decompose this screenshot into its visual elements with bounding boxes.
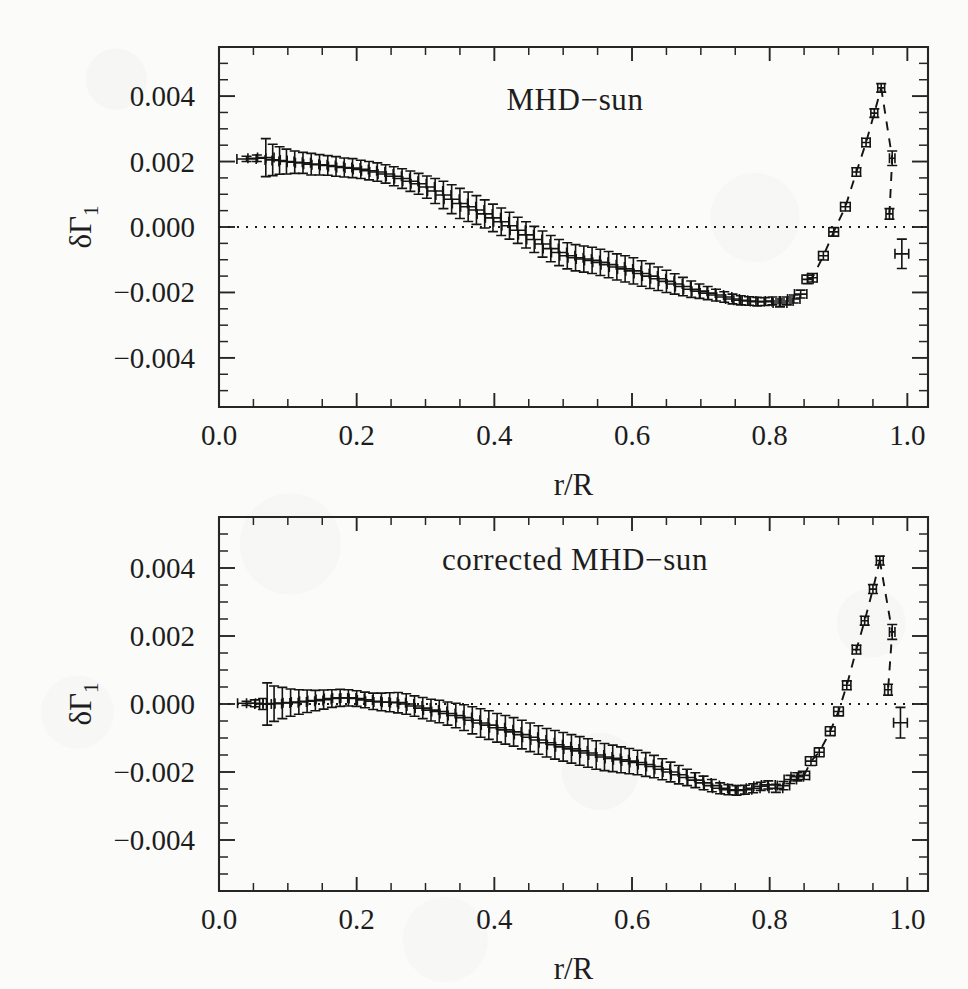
- y-tick-label: −0.004: [113, 824, 195, 856]
- y-tick-label: 0.000: [130, 211, 195, 243]
- x-tick-label: 0.2: [339, 903, 375, 935]
- error-bar-point: [794, 289, 806, 299]
- x-tick-label: 1.0: [889, 903, 925, 935]
- y-axis-title: δΓ1: [63, 205, 103, 248]
- x-tick-label: 0.4: [476, 419, 513, 451]
- error-bar-point: [807, 273, 817, 283]
- panel-annotation-title: corrected MHD−sun: [442, 542, 708, 577]
- figure-root: 0.00.20.40.60.81.00.0040.0020.000−0.002−…: [0, 0, 968, 989]
- panel-annotation-title: MHD−sun: [506, 82, 643, 117]
- y-tick-label: −0.002: [113, 276, 195, 308]
- error-bar-point: [887, 151, 897, 165]
- data-points-group: [238, 556, 908, 796]
- x-tick-label: 0.8: [752, 903, 788, 935]
- x-tick-label: 1.0: [889, 419, 925, 451]
- error-bar-point: [851, 167, 861, 177]
- panel-bottom-svg: 0.00.20.40.60.81.00.0040.0020.000−0.002−…: [0, 470, 968, 989]
- y-tick-label: −0.002: [113, 756, 195, 788]
- error-bar-point: [818, 251, 828, 261]
- error-bar-point: [799, 770, 810, 780]
- error-bar-point: [851, 645, 861, 655]
- error-bar-point: [840, 202, 850, 212]
- panel-top: 0.00.20.40.60.81.00.0040.0020.000−0.002−…: [0, 0, 968, 500]
- y-axis-title: δΓ1: [63, 682, 103, 725]
- error-bar-point: [895, 239, 909, 268]
- error-bar-point: [887, 624, 897, 639]
- x-tick-label: 0.0: [201, 419, 237, 451]
- error-bar-point: [860, 616, 870, 626]
- error-bar-point: [829, 227, 839, 237]
- panel-bottom: 0.00.20.40.60.81.00.0040.0020.000−0.002−…: [0, 470, 968, 989]
- error-bar-point: [825, 726, 835, 736]
- error-bar-point: [883, 684, 893, 695]
- y-tick-label: 0.004: [130, 552, 196, 584]
- error-bar-point: [842, 680, 852, 690]
- y-tick-label: 0.004: [130, 80, 196, 112]
- x-axis-title: r/R: [554, 951, 594, 986]
- panel-top-svg: 0.00.20.40.60.81.00.0040.0020.000−0.002−…: [0, 0, 968, 500]
- error-bar-point: [834, 706, 844, 716]
- x-tick-label: 0.6: [614, 419, 650, 451]
- x-tick-label: 0.2: [339, 419, 375, 451]
- svg-text:δΓ1: δΓ1: [63, 682, 103, 725]
- y-tick-label: 0.002: [130, 146, 195, 178]
- error-bar-point: [875, 556, 885, 566]
- error-bar-point: [868, 584, 878, 594]
- y-tick-label: 0.002: [130, 620, 195, 652]
- x-tick-label: 0.4: [476, 903, 513, 935]
- x-tick-label: 0.8: [752, 419, 788, 451]
- svg-text:δΓ1: δΓ1: [63, 205, 103, 248]
- error-bar-point: [876, 83, 886, 93]
- error-bar-point: [894, 707, 908, 738]
- x-tick-label: 0.0: [201, 903, 237, 935]
- x-tick-label: 0.6: [614, 903, 650, 935]
- error-bar-point: [869, 108, 879, 118]
- error-bar-point: [884, 209, 894, 219]
- error-bar-point: [861, 138, 871, 148]
- y-tick-label: 0.000: [130, 688, 195, 720]
- y-tick-label: −0.004: [113, 342, 195, 374]
